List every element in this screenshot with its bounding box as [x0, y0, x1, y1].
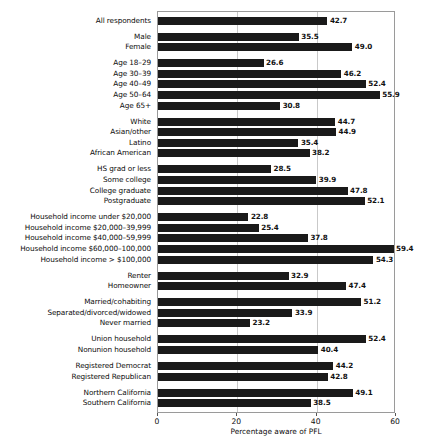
- bar-value-label: 42.8: [330, 371, 347, 382]
- bar: [158, 272, 289, 280]
- bar-row: 52.4: [158, 334, 394, 345]
- y-axis-tick-label: Southern California: [0, 397, 154, 408]
- y-axis-tick-label: Household income $20,000–39,999: [0, 222, 154, 233]
- y-axis-tick-label: Northern California: [0, 387, 154, 398]
- bar: [158, 80, 366, 88]
- bar-row: 55.9: [158, 90, 394, 101]
- y-axis-tick-label: Household income under $20,000: [0, 211, 154, 222]
- bar-value-label: 54.3: [376, 254, 393, 265]
- bar-row: 33.9: [158, 308, 394, 319]
- x-tick-label: 60: [390, 417, 400, 427]
- bar-row: 59.4: [158, 244, 394, 255]
- y-axis-tick-label: Married/cohabiting: [0, 296, 154, 307]
- bar-value-label: 55.9: [382, 89, 399, 100]
- bar-value-label: 44.7: [338, 116, 355, 127]
- bar: [158, 176, 316, 184]
- y-axis-tick-label: Registered Republican: [0, 371, 154, 382]
- y-axis-tick-label: Nonunion household: [0, 344, 154, 355]
- bar: [158, 91, 380, 99]
- bar-value-label: 52.4: [368, 78, 385, 89]
- x-tick-label: 0: [155, 417, 160, 427]
- bar-value-label: 33.9: [295, 307, 312, 318]
- bar-value-label: 26.6: [266, 57, 283, 68]
- bar-row: 46.2: [158, 69, 394, 80]
- bar-value-label: 51.2: [364, 296, 381, 307]
- bar-row: 37.8: [158, 233, 394, 244]
- bar: [158, 282, 346, 290]
- bar-row: 42.8: [158, 372, 394, 383]
- bar-row: 47.8: [158, 186, 394, 197]
- y-axis-category-labels: All respondentsMaleFemaleAge 18–29Age 30…: [0, 11, 154, 413]
- y-axis-tick-label: Separated/divorced/widowed: [0, 307, 154, 318]
- bar-chart: All respondentsMaleFemaleAge 18–29Age 30…: [0, 0, 428, 442]
- bar-value-label: 49.1: [355, 387, 372, 398]
- bar: [158, 389, 353, 397]
- y-axis-tick-label: All respondents: [0, 15, 154, 26]
- bar: [158, 346, 318, 354]
- bar-row: 42.7: [158, 16, 394, 27]
- bar-value-label: 44.9: [339, 126, 356, 137]
- bar-row: 49.0: [158, 42, 394, 53]
- bar: [158, 43, 352, 51]
- y-axis-tick-label: Age 30–39: [0, 68, 154, 79]
- y-axis-tick-label: Female: [0, 41, 154, 52]
- bar: [158, 213, 248, 221]
- bar-value-label: 52.4: [368, 333, 385, 344]
- y-axis-tick-label: Latino: [0, 137, 154, 148]
- y-axis-tick-label: Age 65+: [0, 100, 154, 111]
- y-axis-tick-label: Household income > $100,000: [0, 254, 154, 265]
- bar-value-label: 47.8: [350, 185, 367, 196]
- bar: [158, 102, 280, 110]
- bar-row: 38.5: [158, 398, 394, 409]
- bar: [158, 224, 259, 232]
- y-axis-tick-label: Homeowner: [0, 280, 154, 291]
- y-axis-tick-label: African American: [0, 147, 154, 158]
- bar: [158, 187, 348, 195]
- bar-value-label: 38.5: [313, 397, 330, 408]
- bar-value-label: 40.4: [321, 344, 338, 355]
- bar: [158, 362, 333, 370]
- bar: [158, 165, 271, 173]
- bar: [158, 373, 328, 381]
- bar: [158, 197, 365, 205]
- y-axis-tick-label: Male: [0, 31, 154, 42]
- bar-value-label: 23.2: [253, 317, 270, 328]
- bar: [158, 335, 366, 343]
- bar-row: 52.1: [158, 196, 394, 207]
- bar: [158, 17, 327, 25]
- x-tick-mark: [316, 413, 317, 416]
- bar-value-label: 37.8: [310, 232, 327, 243]
- y-axis-tick-label: College graduate: [0, 185, 154, 196]
- bar-value-label: 30.8: [283, 100, 300, 111]
- y-axis-tick-label: Some college: [0, 174, 154, 185]
- bar: [158, 59, 264, 67]
- bar-row: 44.2: [158, 361, 394, 372]
- bar-value-label: 32.9: [291, 270, 308, 281]
- bar-value-label: 25.4: [261, 222, 278, 233]
- bar-value-label: 35.5: [301, 31, 318, 42]
- bar-value-label: 47.4: [349, 280, 366, 291]
- y-axis-tick-label: White: [0, 116, 154, 127]
- bar-row: 47.4: [158, 281, 394, 292]
- bar: [158, 245, 394, 253]
- bar-value-label: 46.2: [344, 68, 361, 79]
- y-axis-tick-label: Never married: [0, 317, 154, 328]
- bar-value-label: 35.4: [301, 137, 318, 148]
- bar-row: 49.1: [158, 388, 394, 399]
- y-axis-tick-label: Postgraduate: [0, 195, 154, 206]
- bar: [158, 70, 341, 78]
- y-axis-tick-label: Asian/other: [0, 126, 154, 137]
- bar-row: 44.7: [158, 117, 394, 128]
- bar-value-label: 28.5: [274, 163, 291, 174]
- y-axis-tick-label: Renter: [0, 270, 154, 281]
- bar-row: 28.5: [158, 164, 394, 175]
- bar-row: 30.8: [158, 101, 394, 112]
- bar-row: 54.3: [158, 255, 394, 266]
- bar-row: 35.4: [158, 138, 394, 149]
- bar: [158, 234, 308, 242]
- bar-value-label: 22.8: [251, 211, 268, 222]
- bar-value-label: 42.7: [330, 15, 347, 26]
- bar-value-label: 52.1: [367, 195, 384, 206]
- bar-value-label: 49.0: [355, 41, 372, 52]
- bar-value-label: 39.9: [319, 174, 336, 185]
